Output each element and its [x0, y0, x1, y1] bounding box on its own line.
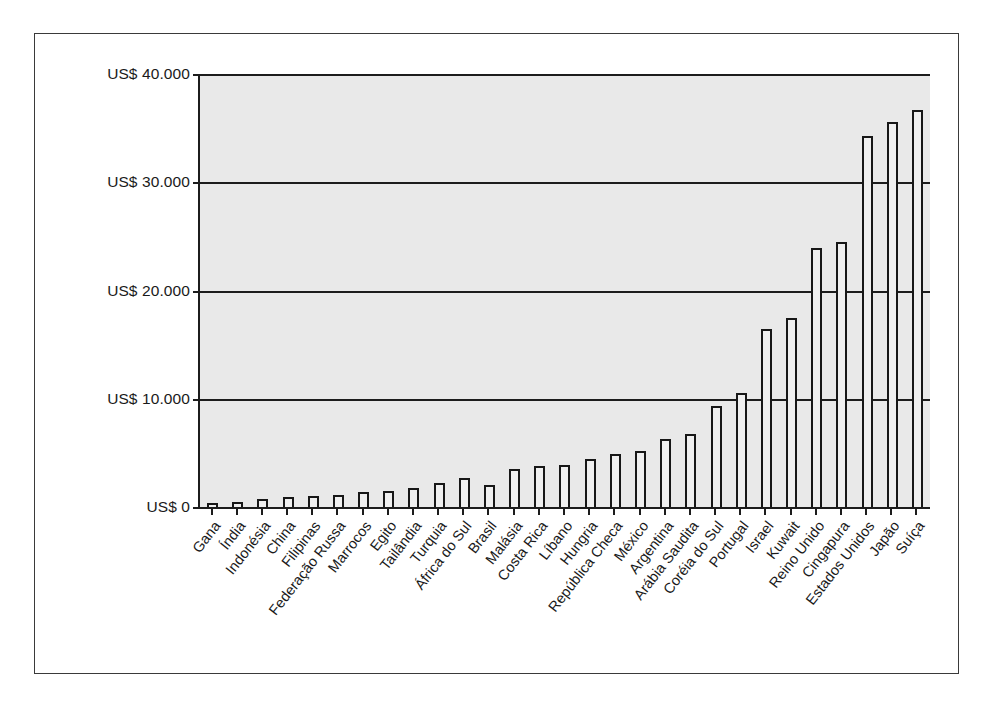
x-axis-tick [563, 507, 565, 515]
x-axis-tick [714, 507, 716, 515]
bar-slot [678, 74, 703, 507]
bar [434, 483, 445, 507]
bar [610, 454, 621, 507]
bar [912, 110, 923, 507]
bar [761, 329, 772, 507]
bar [559, 465, 570, 507]
x-axis-slot: Cingapura [827, 510, 852, 670]
bar [862, 136, 873, 507]
bar [408, 488, 419, 507]
bar-slot [200, 74, 225, 507]
bar-slot [854, 74, 879, 507]
y-axis-tick-label: US$ 30.000 [107, 173, 190, 191]
x-axis-tick-label: Gana [189, 518, 223, 556]
x-axis-slot: Suíça [903, 510, 928, 670]
bar [333, 495, 344, 507]
y-axis-tick [193, 507, 200, 509]
x-axis-slot: Arábia Saudita [676, 510, 701, 670]
x-axis-slot: Índia [223, 510, 248, 670]
bar [786, 318, 797, 507]
bar-slot [779, 74, 804, 507]
x-axis-tick [211, 507, 213, 515]
chart-figure: US$ 40.000US$ 30.000US$ 20.000US$ 10.000… [34, 33, 959, 674]
x-axis-tick [890, 507, 892, 515]
bar-slot [804, 74, 829, 507]
x-axis-slot: Kuwait [777, 510, 802, 670]
bar [232, 502, 243, 507]
bar-slot [351, 74, 376, 507]
x-axis-tick [487, 507, 489, 515]
bar-slot [703, 74, 728, 507]
x-axis-slot: Marrocos [349, 510, 374, 670]
x-axis-tick [538, 507, 540, 515]
bar-slot [754, 74, 779, 507]
bar [685, 434, 696, 507]
bar-slot [376, 74, 401, 507]
x-axis-tick [840, 507, 842, 515]
bar-slot [326, 74, 351, 507]
y-axis-labels: US$ 40.000US$ 30.000US$ 20.000US$ 10.000… [35, 74, 190, 507]
bar [257, 499, 268, 507]
x-axis-slot: Malásia [500, 510, 525, 670]
x-axis-tick [513, 507, 515, 515]
x-axis-slot: Indonésia [248, 510, 273, 670]
x-axis-slot: Portugal [727, 510, 752, 670]
x-axis-slot: Turquia [425, 510, 450, 670]
bar-slot [880, 74, 905, 507]
bar [207, 503, 218, 507]
bar [736, 393, 747, 507]
bar-slot [452, 74, 477, 507]
bar-slot [905, 74, 930, 507]
bar [459, 478, 470, 507]
x-axis-tick [286, 507, 288, 515]
bar-slot [427, 74, 452, 507]
bar-slot [829, 74, 854, 507]
bar [509, 469, 520, 507]
x-axis-tick [261, 507, 263, 515]
y-axis-tick-label: US$ 20.000 [107, 282, 190, 300]
x-axis-tick [236, 507, 238, 515]
x-axis-tick [815, 507, 817, 515]
bar [711, 406, 722, 507]
bar-slot [628, 74, 653, 507]
bar [358, 492, 369, 507]
bar-slot [276, 74, 301, 507]
x-axis-slot: Federação Russa [324, 510, 349, 670]
bar-slot [552, 74, 577, 507]
bar-slot [653, 74, 678, 507]
bar-slot [527, 74, 552, 507]
bar [308, 496, 319, 507]
bar-slot [250, 74, 275, 507]
bar-slot [401, 74, 426, 507]
bar [660, 439, 671, 507]
bar [585, 459, 596, 507]
x-axis-tick [865, 507, 867, 515]
x-axis-tick [915, 507, 917, 515]
x-axis-tick [412, 507, 414, 515]
y-axis-tick [193, 74, 200, 76]
bar-slot [729, 74, 754, 507]
x-axis-tick [689, 507, 691, 515]
bar-slot [477, 74, 502, 507]
x-axis-tick [311, 507, 313, 515]
y-axis-tick-label: US$ 10.000 [107, 390, 190, 408]
y-axis-tick-label: US$ 40.000 [107, 65, 190, 83]
bar [484, 485, 495, 507]
x-axis-tick [437, 507, 439, 515]
x-axis-tick [613, 507, 615, 515]
bar-slot [603, 74, 628, 507]
bar [836, 242, 847, 507]
x-axis-slot: Japão [878, 510, 903, 670]
x-axis-slot: República Checa [601, 510, 626, 670]
y-axis-tick-label: US$ 0 [146, 498, 190, 516]
bar-series [200, 74, 930, 507]
bar-slot [301, 74, 326, 507]
x-axis-tick [588, 507, 590, 515]
bar-slot [578, 74, 603, 507]
bar-slot [225, 74, 250, 507]
plot-area [198, 74, 930, 509]
x-axis-slot: Hungria [576, 510, 601, 670]
x-axis-slot: Israel [752, 510, 777, 670]
bar [283, 497, 294, 507]
x-axis-tick [664, 507, 666, 515]
